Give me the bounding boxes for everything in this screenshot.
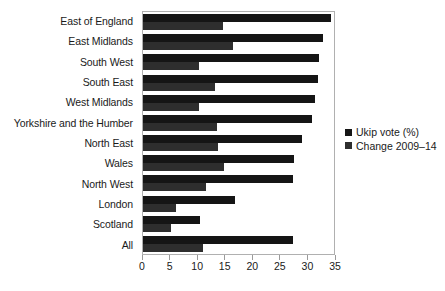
category-label: West Midlands <box>0 92 138 112</box>
category-label: South East <box>0 72 138 92</box>
bar-ukip-vote <box>143 95 315 103</box>
bar-change <box>143 143 218 151</box>
bar-chart: East of EnglandEast MidlandsSouth WestSo… <box>0 0 445 291</box>
bar-ukip-vote <box>143 196 235 204</box>
axis-tick-label: 20 <box>246 261 258 272</box>
bar-group <box>143 234 334 254</box>
bar-group <box>143 73 334 93</box>
axis-tick-label: 25 <box>274 261 286 272</box>
legend-label: Ukip vote (%) <box>356 127 419 138</box>
axis-tick-label: 30 <box>302 261 314 272</box>
bar-ukip-vote <box>143 75 318 83</box>
bar-ukip-vote <box>143 115 312 123</box>
legend-entry: Change 2009–14 <box>345 141 443 152</box>
bar-ukip-vote <box>143 135 302 143</box>
category-label: East of England <box>0 11 138 31</box>
legend-swatch-icon <box>345 129 352 136</box>
bar-change <box>143 62 199 70</box>
axis-tick-label: 10 <box>191 261 203 272</box>
bar-group <box>143 32 334 52</box>
bar-group <box>143 173 334 193</box>
category-label: Wales <box>0 153 138 173</box>
bar-ukip-vote <box>143 216 200 224</box>
bar-ukip-vote <box>143 54 319 62</box>
bar-group <box>143 214 334 234</box>
plot-inner <box>143 12 334 254</box>
bar-change <box>143 204 176 212</box>
bar-group <box>143 52 334 72</box>
category-label: All <box>0 235 138 255</box>
value-axis: 05101520253035 <box>142 255 335 285</box>
bar-group <box>143 93 334 113</box>
plot-area <box>142 11 335 255</box>
axis-tick-label: 35 <box>329 261 341 272</box>
legend-label: Change 2009–14 <box>356 141 437 152</box>
bar-ukip-vote <box>143 34 323 42</box>
bar-change <box>143 42 233 50</box>
legend-entry: Ukip vote (%) <box>345 127 443 138</box>
bar-change <box>143 22 223 30</box>
bar-group <box>143 133 334 153</box>
category-label: North West <box>0 174 138 194</box>
category-label: East Midlands <box>0 31 138 51</box>
category-axis: East of EnglandEast MidlandsSouth WestSo… <box>0 11 138 255</box>
legend-swatch-icon <box>345 142 352 149</box>
bar-group <box>143 194 334 214</box>
axis-tick-label: 0 <box>139 261 145 272</box>
bar-group <box>143 113 334 133</box>
bar-ukip-vote <box>143 14 331 22</box>
bar-change <box>143 163 224 171</box>
bar-ukip-vote <box>143 175 293 183</box>
axis-tick-label: 5 <box>167 261 173 272</box>
category-label: South West <box>0 52 138 72</box>
axis-tick-label: 15 <box>219 261 231 272</box>
category-label: London <box>0 194 138 214</box>
chart-legend: Ukip vote (%)Change 2009–14 <box>345 127 443 154</box>
bar-group <box>143 12 334 32</box>
bar-ukip-vote <box>143 236 293 244</box>
category-label: Scotland <box>0 214 138 234</box>
bar-ukip-vote <box>143 155 294 163</box>
bar-group <box>143 153 334 173</box>
category-label: Yorkshire and the Humber <box>0 113 138 133</box>
bar-change <box>143 224 171 232</box>
category-label: North East <box>0 133 138 153</box>
bar-change <box>143 83 215 91</box>
bar-change <box>143 244 203 252</box>
bar-change <box>143 183 206 191</box>
bar-change <box>143 123 217 131</box>
bar-change <box>143 103 199 111</box>
